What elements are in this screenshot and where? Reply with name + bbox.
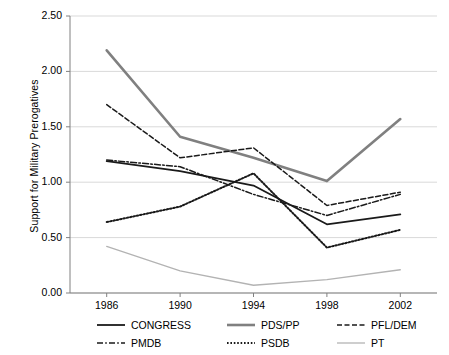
legend-label-pds-pp: PDS/PP xyxy=(261,319,300,331)
y-tick-label-1.00: 1.00 xyxy=(26,175,62,187)
series-line-psdb xyxy=(107,173,401,247)
legend-label-pfl-dem: PFL/DEM xyxy=(371,319,417,331)
legend-entry-pfl-dem[interactable]: PFL/DEM xyxy=(336,319,436,331)
legend-line-pdspp-icon xyxy=(226,320,256,330)
series-line-pds-pp xyxy=(107,50,401,181)
legend-entry-congress[interactable]: CONGRESS xyxy=(96,319,226,331)
legend: CONGRESSPDS/PPPFL/DEMPMDBPSDBPT xyxy=(96,316,436,352)
legend-line-pmdb-icon xyxy=(96,338,126,348)
legend-label-psdb: PSDB xyxy=(261,337,290,349)
y-tick-label-1.50: 1.50 xyxy=(26,120,62,132)
series-line-pmdb xyxy=(107,160,401,215)
legend-line-congress-icon xyxy=(96,320,126,330)
series-line-congress xyxy=(107,161,401,224)
series-line-pt xyxy=(107,246,401,285)
x-tick-label-2002: 2002 xyxy=(370,299,430,311)
x-tick-label-1998: 1998 xyxy=(297,299,357,311)
y-tick-label-2.00: 2.00 xyxy=(26,64,62,76)
legend-entry-pds-pp[interactable]: PDS/PP xyxy=(226,319,336,331)
legend-entry-pmdb[interactable]: PMDB xyxy=(96,337,226,349)
legend-label-pmdb: PMDB xyxy=(131,337,161,349)
legend-label-pt: PT xyxy=(371,337,384,349)
legend-entry-pt[interactable]: PT xyxy=(336,337,436,349)
x-tick-label-1990: 1990 xyxy=(150,299,210,311)
y-tick-label-0.00: 0.00 xyxy=(26,286,62,298)
x-tick-label-1994: 1994 xyxy=(224,299,284,311)
legend-line-pfldem-icon xyxy=(336,320,366,330)
x-tick-label-1986: 1986 xyxy=(77,299,137,311)
legend-line-pt-icon xyxy=(336,338,366,348)
legend-label-congress: CONGRESS xyxy=(131,319,191,331)
legend-line-psdb-icon xyxy=(226,338,256,348)
legend-entry-psdb[interactable]: PSDB xyxy=(226,337,336,349)
y-tick-label-0.50: 0.50 xyxy=(26,231,62,243)
line-chart: Support for Military Prerogatives 0.000.… xyxy=(0,0,449,355)
y-tick-label-2.50: 2.50 xyxy=(26,9,62,21)
